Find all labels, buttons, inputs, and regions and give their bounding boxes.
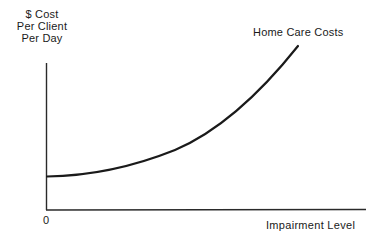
home-care-costs-curve bbox=[47, 46, 298, 177]
chart-plot-area bbox=[0, 0, 385, 242]
x-axis-line bbox=[46, 210, 366, 211]
x-axis-origin-tick: 0 bbox=[43, 214, 49, 226]
x-axis-label: Impairment Level bbox=[266, 219, 355, 231]
